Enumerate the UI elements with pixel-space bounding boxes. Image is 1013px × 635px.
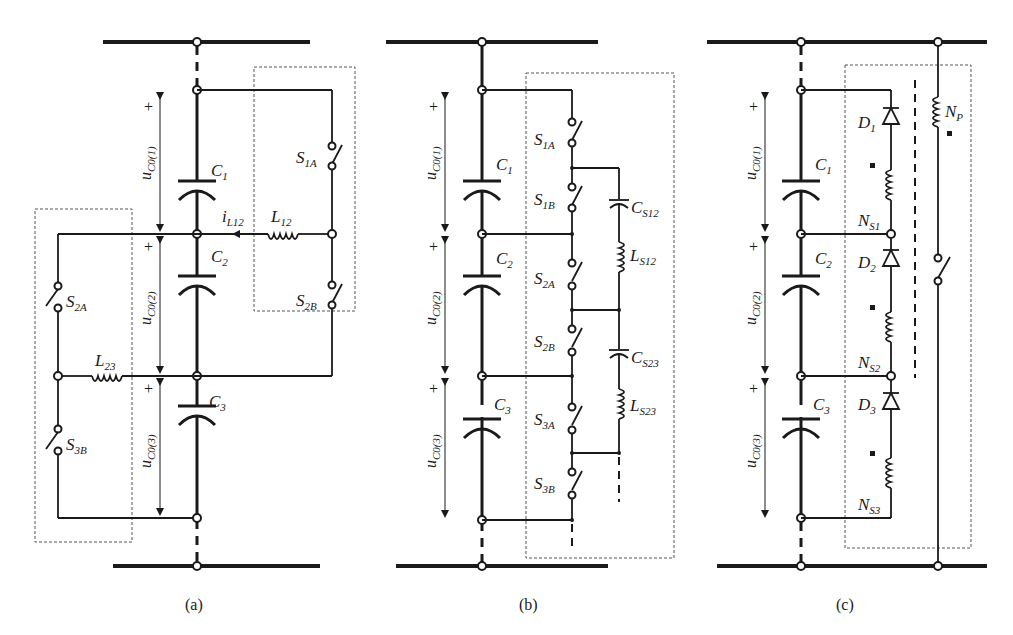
s3a-label: S3A: [534, 410, 555, 431]
inductor-l23: [92, 376, 122, 381]
caption-a: (a): [185, 596, 203, 614]
panel-b: C1 C2 C3 S1A S1B S2A: [386, 38, 674, 614]
primary-winding-np: [933, 97, 938, 127]
c1-label: C1: [496, 155, 513, 176]
switch-s1a: [569, 119, 583, 147]
ns3-label: NS3: [857, 495, 881, 516]
d2-label: D2: [857, 253, 876, 274]
switch-s2a: [569, 260, 583, 290]
plus-sign: +: [429, 380, 438, 397]
plus-sign: +: [749, 380, 758, 397]
s2b-label: S2B: [296, 291, 317, 312]
uc02-label: uC0(2): [422, 291, 443, 325]
resonant-inductor-ls12: [619, 242, 624, 272]
primary-switch: [935, 255, 951, 285]
uc03-label: uC0(3): [742, 434, 763, 468]
s2b-label: S2B: [534, 332, 555, 353]
switch-s1a: [329, 143, 343, 170]
diode-d1: [883, 108, 899, 124]
plus-sign: +: [144, 238, 153, 255]
c1-label: C1: [211, 161, 228, 182]
switch-s1b: [569, 184, 583, 212]
s1a-label: S1A: [296, 148, 317, 169]
uc01-label: uC0(1): [137, 146, 158, 180]
d1-label: D1: [857, 113, 876, 134]
switch-s2b: [329, 282, 343, 309]
s2a-label: S2A: [534, 269, 555, 290]
uc02-label: uC0(2): [137, 291, 158, 325]
equalizer-schematics: C1 C2 C3 S1A S2B: [0, 0, 1013, 635]
c3-label: C3: [813, 395, 830, 416]
cs12-label: CS12: [631, 198, 659, 219]
switch-s2b: [569, 326, 583, 356]
uc03-label: uC0(3): [137, 434, 158, 468]
ls12-label: LS12: [629, 246, 656, 267]
plus-sign: +: [144, 380, 153, 397]
uc01-label: uC0(1): [742, 146, 763, 180]
caption-c: (c): [836, 596, 854, 614]
switch-s3a: [569, 404, 583, 434]
caption-b: (b): [519, 596, 538, 614]
plus-sign: +: [429, 98, 438, 115]
d3-label: D3: [857, 395, 876, 416]
s1a-label: S1A: [534, 130, 555, 151]
panel-a: C1 C2 C3 S1A S2B: [35, 38, 355, 614]
switch-s3b: [46, 426, 62, 455]
diode-d3: [883, 393, 899, 409]
c3-label: C3: [209, 392, 226, 413]
l12-label: L12: [270, 207, 292, 228]
uc03-label: uC0(3): [422, 434, 443, 468]
secondary-winding-ns1: [886, 170, 891, 200]
l23-label: L23: [94, 351, 116, 372]
cs23-label: CS23: [631, 348, 659, 369]
c2-label: C2: [815, 249, 832, 270]
plus-sign: +: [749, 98, 758, 115]
switch-group-box-right: [254, 67, 355, 311]
s2a-label: S2A: [66, 292, 87, 313]
ns2-label: NS2: [857, 353, 881, 374]
resonant-inductor-ls23: [619, 389, 624, 419]
c2-label: C2: [496, 249, 513, 270]
c1-label: C1: [815, 155, 832, 176]
np-label: NP: [944, 102, 963, 123]
switch-s2a: [46, 283, 62, 312]
ns1-label: NS1: [857, 211, 880, 232]
current-arrow-icon: [232, 230, 240, 238]
uc02-label: uC0(2): [742, 291, 763, 325]
il12-label: iL12: [222, 207, 244, 228]
inductor-l12: [268, 234, 298, 239]
c3-label: C3: [494, 395, 511, 416]
secondary-winding-ns3: [886, 458, 891, 488]
s3b-label: S3B: [534, 474, 555, 495]
s3b-label: S3B: [66, 435, 87, 456]
plus-sign: +: [749, 238, 758, 255]
plus-sign: +: [144, 98, 153, 115]
c2-label: C2: [211, 247, 228, 268]
diode-d2: [883, 250, 899, 266]
switch-s3b: [569, 469, 583, 499]
s1b-label: S1B: [534, 190, 555, 211]
plus-sign: +: [429, 238, 438, 255]
transformer-box: [845, 65, 971, 548]
ls23-label: LS23: [629, 396, 656, 417]
uc01-label: uC0(1): [422, 146, 443, 180]
secondary-winding-ns2: [886, 312, 891, 342]
panel-c: C1 C2 C3 D1 NS1 D2: [707, 38, 987, 614]
